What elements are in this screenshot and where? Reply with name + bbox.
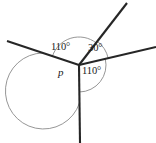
angle-diagram-canvas — [0, 0, 156, 143]
arc-p-large — [5, 53, 79, 129]
angle-label-110-top-left: 110° — [51, 42, 70, 53]
ray-down — [79, 65, 80, 143]
angle-label-110-bottom-right: 110° — [82, 66, 101, 77]
angle-diagram: 110° 30° 110° p — [0, 0, 156, 143]
angle-label-p-unknown: p — [58, 67, 63, 78]
angle-label-30-top-right: 30° — [88, 43, 102, 54]
